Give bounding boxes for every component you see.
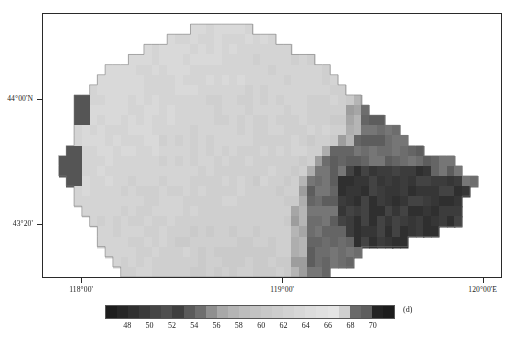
y-axis-label-1: 43°20' bbox=[0, 219, 33, 228]
colorbar-swatch-19 bbox=[316, 306, 327, 318]
colorbar-tick-label-2: 52 bbox=[168, 321, 176, 330]
colorbar-tick-label-6: 60 bbox=[257, 321, 265, 330]
colorbar-swatch-24 bbox=[372, 306, 383, 318]
y-axis-tick-0 bbox=[37, 99, 42, 100]
x-axis-tick-1 bbox=[282, 278, 283, 283]
colorbar-tick-label-0: 48 bbox=[123, 321, 131, 330]
x-axis-label-0: 118°00' bbox=[41, 285, 121, 294]
colorbar-swatch-10 bbox=[217, 306, 228, 318]
colorbar-swatch-25 bbox=[383, 306, 394, 318]
colorbar-swatch-15 bbox=[272, 306, 283, 318]
colorbar-swatch-21 bbox=[339, 306, 350, 318]
colorbar-swatch-5 bbox=[161, 306, 172, 318]
raster-data-layer bbox=[43, 14, 501, 277]
colorbar-tick-label-7: 62 bbox=[279, 321, 287, 330]
x-axis-label-2: 120°00'E bbox=[443, 285, 523, 294]
x-axis-tick-0 bbox=[81, 278, 82, 283]
colorbar-swatch-0 bbox=[106, 306, 117, 318]
colorbar-tick-label-4: 56 bbox=[213, 321, 221, 330]
colorbar-swatch-9 bbox=[206, 306, 217, 318]
y-axis-tick-1 bbox=[37, 224, 42, 225]
colorbar-swatch-4 bbox=[150, 306, 161, 318]
colorbar-swatch-20 bbox=[328, 306, 339, 318]
colorbar-swatch-18 bbox=[305, 306, 316, 318]
map-raster-canvas bbox=[43, 14, 501, 277]
colorbar-tick-label-1: 50 bbox=[146, 321, 154, 330]
colorbar-tick-label-5: 58 bbox=[235, 321, 243, 330]
x-axis-label-1: 119°00' bbox=[242, 285, 322, 294]
colorbar-swatch-7 bbox=[184, 306, 195, 318]
colorbar-swatch-12 bbox=[239, 306, 250, 318]
colorbar-swatch-17 bbox=[294, 306, 305, 318]
colorbar-swatch-6 bbox=[172, 306, 183, 318]
colorbar-tick-label-10: 68 bbox=[346, 321, 354, 330]
colorbar: 485052545658606264666870 (d) bbox=[105, 305, 395, 335]
colorbar-tick-label-9: 66 bbox=[324, 321, 332, 330]
colorbar-swatch-23 bbox=[361, 306, 372, 318]
colorbar-tick-labels: 485052545658606264666870 bbox=[105, 321, 395, 335]
colorbar-swatch-16 bbox=[283, 306, 294, 318]
colorbar-swatch-3 bbox=[139, 306, 150, 318]
colorbar-tick-label-11: 70 bbox=[369, 321, 377, 330]
colorbar-tick-label-8: 64 bbox=[302, 321, 310, 330]
map-plot-frame bbox=[42, 13, 502, 278]
colorbar-unit-label: (d) bbox=[403, 305, 412, 314]
colorbar-tick-label-3: 54 bbox=[190, 321, 198, 330]
colorbar-swatch-1 bbox=[117, 306, 128, 318]
colorbar-swatch-2 bbox=[128, 306, 139, 318]
colorbar-swatch-14 bbox=[261, 306, 272, 318]
colorbar-swatch-8 bbox=[195, 306, 206, 318]
colorbar-swatch-11 bbox=[228, 306, 239, 318]
colorbar-swatch-22 bbox=[350, 306, 361, 318]
colorbar-swatch-13 bbox=[250, 306, 261, 318]
y-axis-label-0: 44°00'N bbox=[0, 94, 33, 103]
colorbar-gradient-strip bbox=[105, 305, 395, 319]
x-axis-tick-2 bbox=[483, 278, 484, 283]
